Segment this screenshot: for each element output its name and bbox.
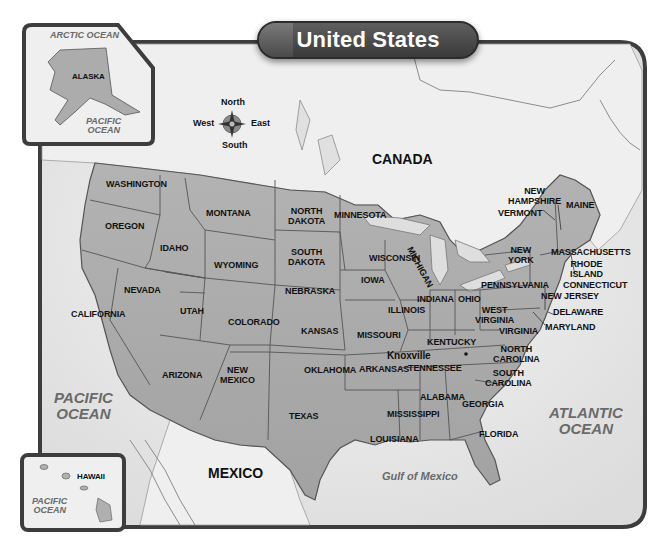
state-delaware: DELAWARE (553, 307, 603, 317)
state-virginia: VIRGINIA (499, 326, 538, 336)
compass-east: East (251, 118, 270, 128)
state-south-carolina: SOUTHCAROLINA (485, 368, 532, 388)
state-new-jersey: NEW JERSEY (541, 291, 599, 301)
compass-north: North (221, 97, 245, 107)
state-utah: UTAH (180, 306, 204, 316)
state-colorado: COLORADO (228, 317, 280, 327)
state-oklahoma: OKLAHOMA (304, 365, 356, 375)
state-arizona: ARIZONA (162, 370, 202, 380)
map-title: United States (259, 27, 477, 53)
state-rhode-island: RHODEISLAND (570, 259, 603, 279)
state-kansas: KANSAS (301, 326, 338, 336)
state-ohio: OHIO (458, 294, 481, 304)
hawaii-inset (22, 455, 124, 530)
atlantic-ocean-label: ATLANTICOCEAN (549, 405, 623, 437)
gulf-of-mexico-label: Gulf of Mexico (382, 471, 458, 483)
compass-south: South (222, 140, 248, 150)
us-map: United States North South East West ARCT… (0, 0, 662, 551)
state-north-carolina: NORTHCAROLINA (493, 344, 540, 364)
state-north-dakota: NORTHDAKOTA (288, 206, 325, 226)
alaska-label: ALASKA (72, 72, 105, 82)
state-maine: MAINE (566, 200, 595, 210)
mexico-label: MEXICO (208, 465, 263, 481)
state-california: CALIFORNIA (71, 309, 126, 319)
map-title-banner: United States (257, 21, 479, 59)
arctic-ocean-label: ARCTIC OCEAN (50, 31, 119, 40)
state-florida: FLORIDA (479, 429, 518, 439)
pacific-ocean-label: PACIFICOCEAN (54, 390, 113, 422)
state-iowa: IOWA (361, 275, 385, 285)
state-oregon: OREGON (105, 221, 144, 231)
state-indiana: INDIANA (417, 294, 454, 304)
state-wyoming: WYOMING (214, 260, 258, 270)
state-nevada: NEVADA (124, 285, 161, 295)
state-louisiana: LOUISIANA (370, 434, 419, 444)
state-south-dakota: SOUTHDAKOTA (288, 247, 325, 267)
alaska-pacific-ocean-label: PACIFICOCEAN (86, 117, 121, 136)
state-missouri: MISSOURI (357, 330, 401, 340)
state-arkansas: ARKANSAS (359, 364, 409, 374)
state-west-virginia: WESTVIRGINIA (475, 305, 514, 325)
state-tennessee: TENNESSEE (408, 363, 462, 373)
state-new-mexico: NEWMEXICO (220, 365, 255, 385)
state-alabama: ALABAMA (420, 392, 465, 402)
state-mississippi: MISSISSIPPI (387, 409, 439, 419)
state-massachusetts: MASSACHUSETTS (551, 247, 631, 257)
state-idaho: IDAHO (160, 243, 189, 253)
state-texas: TEXAS (289, 411, 319, 421)
state-georgia: GEORGIA (462, 399, 504, 409)
state-new-hampshire: NEWHAMPSHIRE (508, 186, 561, 206)
state-pennsylvania: PENNSYLVANIA (481, 280, 549, 290)
state-nebraska: NEBRASKA (285, 286, 335, 296)
state-washington: WASHINGTON (106, 179, 167, 189)
state-kentucky: KENTUCKY (427, 337, 476, 347)
state-illinois: ILLINOIS (388, 305, 425, 315)
state-connecticut: CONNECTICUT (563, 280, 627, 290)
state-montana: MONTANA (206, 208, 251, 218)
hawaii-label: HAWAII (77, 472, 105, 482)
state-vermont: VERMONT (498, 208, 542, 218)
compass-west: West (193, 118, 214, 128)
canada-label: CANADA (372, 151, 433, 167)
state-minnesota: MINNESOTA (334, 210, 386, 220)
state-new-york: NEWYORK (508, 245, 534, 265)
state-maryland: MARYLAND (545, 322, 595, 332)
city-knoxville: Knoxville (387, 351, 431, 361)
hawaii-pacific-ocean-label: PACIFICOCEAN (32, 497, 67, 516)
knoxville-dot-icon (464, 352, 468, 356)
map-graphic (0, 0, 662, 551)
